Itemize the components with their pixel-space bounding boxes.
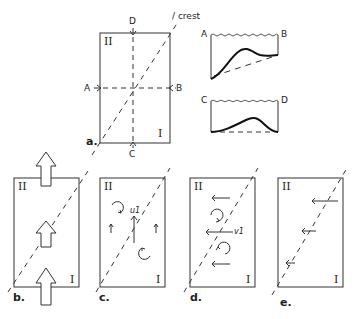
region-one-b: I (70, 274, 74, 285)
panel-label-e: e. (280, 297, 292, 308)
point-b-label: B (176, 84, 182, 93)
region-one-e: I (334, 274, 338, 285)
profile-ab (211, 34, 278, 79)
point-c-label: C (129, 150, 135, 159)
panel-label-b: b. (13, 292, 25, 303)
region-two-a: II (104, 36, 113, 47)
point-d-label: D (129, 17, 136, 26)
profile-ab-left-label: A (201, 30, 207, 39)
region-two-b: II (18, 181, 27, 192)
diagram-canvas (0, 0, 358, 319)
point-a-label: A (84, 84, 90, 93)
profile-cd (211, 100, 278, 132)
profile-ab-right-label: B (281, 30, 287, 39)
panel-label-c: c. (99, 292, 110, 303)
profile-cd-right-label: D (281, 96, 288, 105)
region-one-c: I (156, 274, 160, 285)
region-one-a: I (158, 128, 162, 139)
profile-cd-left-label: C (201, 96, 207, 105)
u1-label: u1 (130, 207, 140, 215)
panel-label-a: a. (86, 136, 98, 147)
panel-label-d: d. (190, 292, 202, 303)
region-two-c: II (104, 181, 113, 192)
region-two-d: II (194, 181, 203, 192)
region-one-d: I (246, 274, 250, 285)
box-b (8, 152, 90, 305)
crest-label: / crest (172, 12, 200, 21)
region-two-e: II (282, 181, 291, 192)
v1-label: v1 (234, 228, 244, 236)
